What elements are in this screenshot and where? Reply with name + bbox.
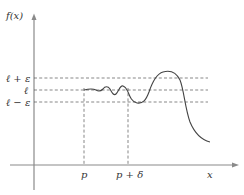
marker-label-p-plus-delta: p + δ <box>116 169 143 180</box>
y-axis-label: f(x) <box>5 10 23 21</box>
level-label-upper: ℓ + ε <box>6 73 30 84</box>
level-label-lower: ℓ − ε <box>6 97 30 108</box>
y-axis-arrow-icon <box>32 14 37 21</box>
x-axis-arrow-icon <box>232 163 239 168</box>
level-label-center: ℓ <box>24 85 28 96</box>
marker-label-p: p <box>81 169 88 180</box>
limit-diagram: f(x) ℓ + ε ℓ ℓ − ε p p + δ x <box>0 0 244 195</box>
function-curve <box>84 71 210 142</box>
x-axis-label: x <box>207 169 213 180</box>
